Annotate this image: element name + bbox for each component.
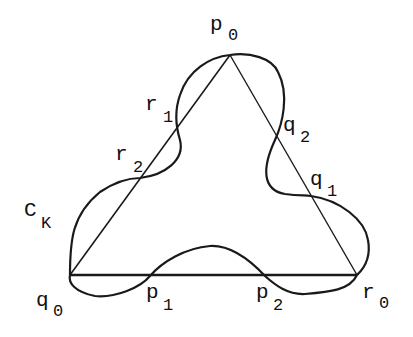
svg-text:q: q — [283, 114, 296, 137]
svg-text:r: r — [115, 143, 128, 166]
svg-text:p: p — [146, 281, 159, 304]
label-ck: C K — [24, 199, 52, 233]
svg-text:1: 1 — [327, 182, 337, 201]
label-q2: q 2 — [283, 114, 310, 147]
triangle — [70, 55, 357, 275]
label-r2: r 2 — [115, 143, 143, 177]
triangle-side-left — [70, 55, 230, 275]
svg-text:2: 2 — [273, 296, 283, 315]
label-p1: p 1 — [146, 281, 173, 315]
triangle-side-right — [230, 55, 357, 275]
svg-text:2: 2 — [133, 158, 143, 177]
curve-ck — [70, 54, 369, 296]
svg-text:q: q — [310, 168, 323, 191]
svg-text:1: 1 — [163, 296, 173, 315]
label-p0: p 0 — [210, 13, 238, 45]
svg-text:r: r — [362, 281, 375, 304]
diagram-canvas: p 0 q 0 r 0 r 1 r 2 q 2 q 1 p 1 p 2 C K — [0, 0, 413, 337]
label-q0: q 0 — [36, 289, 63, 321]
svg-text:1: 1 — [163, 108, 173, 127]
svg-text:0: 0 — [228, 26, 238, 45]
svg-text:2: 2 — [300, 128, 310, 147]
svg-text:q: q — [36, 289, 49, 312]
label-r0: r 0 — [362, 281, 389, 313]
svg-text:K: K — [41, 214, 52, 233]
svg-text:p: p — [210, 13, 223, 36]
svg-text:r: r — [145, 93, 158, 116]
svg-text:C: C — [24, 199, 37, 222]
svg-text:0: 0 — [53, 302, 63, 321]
svg-text:0: 0 — [379, 294, 389, 313]
label-r1: r 1 — [145, 93, 173, 127]
svg-text:p: p — [256, 281, 269, 304]
